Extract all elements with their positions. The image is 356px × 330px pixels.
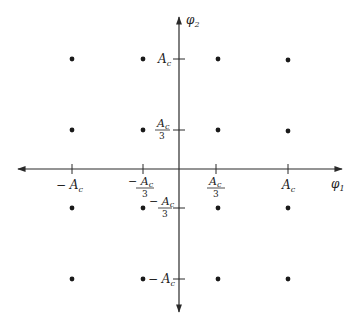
- svg-text:Ac: Ac: [156, 117, 170, 131]
- point-r1-c3: [216, 57, 221, 62]
- point-r4-c1: [70, 277, 75, 282]
- svg-text:− Ac: − Ac: [128, 175, 154, 189]
- point-r3-c4: [286, 206, 291, 211]
- point-r3-c1: [70, 206, 75, 211]
- point-r2-c4: [286, 129, 291, 134]
- point-r3-c2: [141, 206, 146, 211]
- point-r4-c2: [141, 277, 146, 282]
- phi1-axis-label: φ1: [331, 177, 345, 193]
- point-r2-c1: [70, 128, 75, 133]
- svg-text:3: 3: [213, 189, 219, 199]
- x-tick-label-ac-over-3: Ac 3: [207, 175, 225, 199]
- y-tick-label-ac: Ac: [157, 52, 172, 68]
- point-r4-c3: [216, 277, 221, 282]
- svg-text:3: 3: [162, 209, 168, 219]
- point-r4-c4: [286, 277, 291, 282]
- phi2-axis-label: φ2: [186, 13, 200, 29]
- point-r2-c2: [141, 128, 146, 133]
- point-r1-c2: [141, 57, 146, 62]
- constellation-diagram: φ2 φ1 − Ac − Ac 3 Ac 3 Ac Ac Ac 3: [0, 0, 356, 330]
- point-r3-c3: [216, 206, 221, 211]
- point-r2-c3: [216, 128, 221, 133]
- svg-text:3: 3: [142, 189, 148, 199]
- x-tick-label-neg-ac: − Ac: [56, 178, 84, 194]
- y-tick-label-ac-over-3: Ac 3: [155, 117, 170, 141]
- svg-text:3: 3: [159, 131, 165, 141]
- svg-text:Ac: Ac: [208, 175, 222, 189]
- x-tick-label-ac: Ac: [281, 178, 296, 194]
- point-r1-c4: [286, 58, 291, 63]
- y-tick-label-neg-ac: − Ac: [148, 272, 176, 288]
- y-tick-label-neg-ac-over-3: − Ac 3: [149, 195, 175, 219]
- point-r1-c1: [70, 57, 75, 62]
- svg-text:− Ac: − Ac: [149, 195, 175, 209]
